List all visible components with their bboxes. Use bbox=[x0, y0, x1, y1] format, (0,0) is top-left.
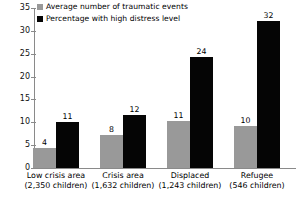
y-axis-tick-label: 35 bbox=[2, 4, 30, 12]
bar-average-traumatic-events bbox=[234, 126, 257, 169]
y-axis-tick-label: 10 bbox=[2, 118, 30, 126]
y-axis-tick bbox=[31, 54, 36, 55]
y-axis-tick bbox=[31, 31, 36, 32]
y-axis-tick-label: 30 bbox=[2, 27, 30, 35]
y-axis-tick bbox=[31, 8, 36, 9]
y-axis-tick bbox=[31, 122, 36, 123]
x-axis-line bbox=[34, 168, 296, 169]
x-axis-category: Refugee(546 children) bbox=[217, 171, 297, 191]
bar-group: 812 bbox=[100, 8, 146, 168]
bar-group: 1032 bbox=[234, 8, 280, 168]
y-axis-tick bbox=[31, 77, 36, 78]
plot-area: 41181211241032 bbox=[35, 8, 296, 168]
bar-value-label: 24 bbox=[190, 47, 213, 56]
y-axis-labels: 05101520253035 bbox=[0, 0, 30, 180]
bar-average-traumatic-events bbox=[100, 135, 123, 168]
y-axis-tick bbox=[31, 145, 36, 146]
y-axis-tick-label: 15 bbox=[2, 95, 30, 103]
category-name: Refugee bbox=[217, 171, 297, 181]
bar-group: 1124 bbox=[167, 8, 213, 168]
bar-value-label: 32 bbox=[257, 11, 280, 20]
y-axis-tick bbox=[31, 99, 36, 100]
bar-percentage-high-distress bbox=[190, 57, 213, 168]
bar-value-label: 11 bbox=[56, 112, 79, 121]
bar-percentage-high-distress bbox=[257, 21, 280, 168]
bar-group: 411 bbox=[33, 8, 79, 168]
bar-value-label: 4 bbox=[33, 138, 56, 147]
x-axis-category-labels: Low crisis area(2,350 children)Crisis ar… bbox=[35, 171, 296, 201]
y-axis-tick-label: 20 bbox=[2, 73, 30, 81]
y-axis-tick-label: 5 bbox=[2, 141, 30, 149]
y-axis-tick-label: 25 bbox=[2, 50, 30, 58]
bar-value-label: 11 bbox=[167, 111, 190, 120]
bar-average-traumatic-events bbox=[167, 121, 190, 168]
bar-average-traumatic-events bbox=[33, 148, 56, 168]
category-sample-size: (546 children) bbox=[217, 181, 297, 191]
bar-value-label: 10 bbox=[234, 116, 257, 125]
bar-percentage-high-distress bbox=[56, 122, 79, 168]
bar-value-label: 12 bbox=[123, 105, 146, 114]
bar-percentage-high-distress bbox=[123, 115, 146, 168]
bar-value-label: 8 bbox=[100, 125, 123, 134]
bar-chart: Average number of traumatic events Perce… bbox=[0, 0, 300, 202]
y-axis-tick bbox=[31, 168, 36, 169]
